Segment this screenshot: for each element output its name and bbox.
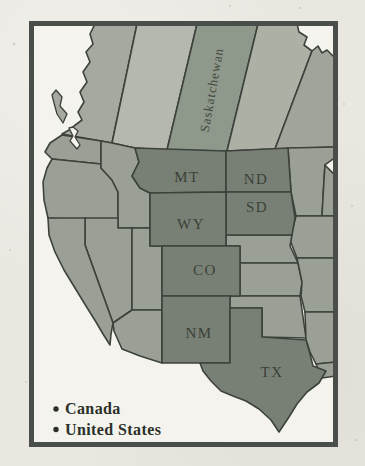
- legend-bullet-icon: [53, 406, 58, 411]
- label-montana: MT: [174, 169, 200, 185]
- label-texas: TX: [261, 364, 284, 380]
- legend-bullet-icon: [53, 427, 58, 432]
- state-kansas: [240, 263, 302, 296]
- label-wyoming: WY: [177, 216, 205, 232]
- state-iowa: [290, 216, 336, 258]
- label-north-dakota: ND: [244, 171, 269, 187]
- label-colorado: CO: [193, 262, 217, 278]
- legend-item-canada: Canada: [65, 400, 121, 417]
- label-new-mexico: NM: [185, 325, 212, 341]
- legend-item-united-states: United States: [65, 421, 161, 438]
- label-south-dakota: SD: [246, 199, 268, 215]
- scanned-map-page: Saskatchewan MT ND SD WY CO NM TX Canada…: [0, 0, 365, 466]
- state-missouri: [297, 258, 336, 312]
- map-figure: Saskatchewan MT ND SD WY CO NM TX Canada…: [0, 0, 365, 466]
